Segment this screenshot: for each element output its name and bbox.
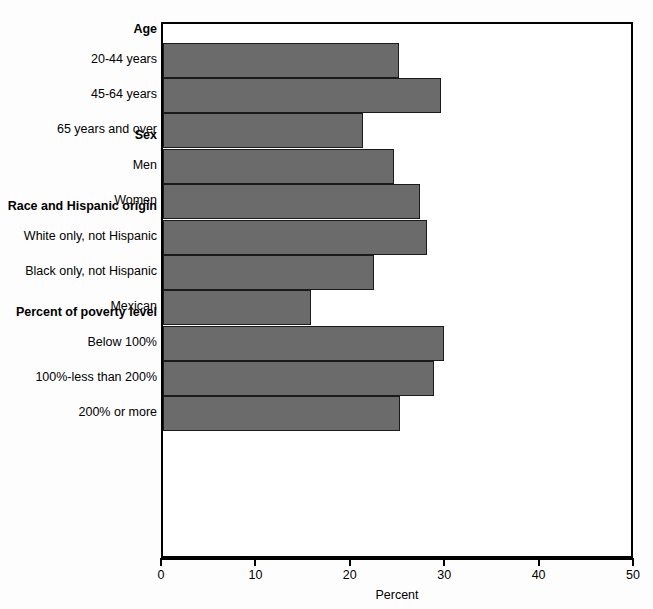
bar [163,361,434,396]
x-tick-label: 10 [235,568,275,582]
group-header-1: Sex [3,128,161,142]
category-label: 100%-less than 200% [3,370,161,384]
x-tick [254,558,256,566]
x-tick-label: 20 [330,568,370,582]
bar [163,255,374,290]
category-label: White only, not Hispanic [3,229,161,243]
bar-row [163,290,631,325]
group-header-0: Age [3,22,161,36]
category-label: Black only, not Hispanic [3,264,161,278]
x-tick [538,558,540,566]
bar [163,326,444,361]
x-tick [349,558,351,566]
x-axis-title: Percent [161,588,633,602]
bar [163,78,441,113]
x-tick [632,558,634,566]
group-header-3: Percent of poverty level [3,305,161,319]
bar-row [163,220,631,255]
bar [163,220,427,255]
group-header-2: Race and Hispanic origin [3,199,161,213]
category-label: 200% or more [3,405,161,419]
chart-figure: Age20-44 years45-64 years65 years and ov… [0,0,653,609]
bar [163,113,363,148]
x-tick-label: 0 [141,568,181,582]
bar-row [163,43,631,78]
category-label: Below 100% [3,335,161,349]
y-axis-labels: Age20-44 years45-64 years65 years and ov… [0,0,161,609]
x-tick-label: 30 [424,568,464,582]
x-tick-label: 40 [519,568,559,582]
bar [163,290,311,325]
x-axis-line [161,558,633,560]
plot-area [161,22,633,558]
bar-row [163,255,631,290]
bar-row [163,113,631,148]
category-label: Men [3,158,161,172]
bar-row [163,149,631,184]
bar-row [163,184,631,219]
bar-row [163,396,631,431]
bar [163,396,400,431]
bar-row [163,326,631,361]
bar-row [163,78,631,113]
x-tick [443,558,445,566]
bar [163,149,394,184]
bar-row [163,361,631,396]
category-label: 45-64 years [3,87,161,101]
x-tick-label: 50 [613,568,653,582]
bar [163,184,420,219]
category-label: 20-44 years [3,52,161,66]
x-tick [160,558,162,566]
bar [163,43,399,78]
